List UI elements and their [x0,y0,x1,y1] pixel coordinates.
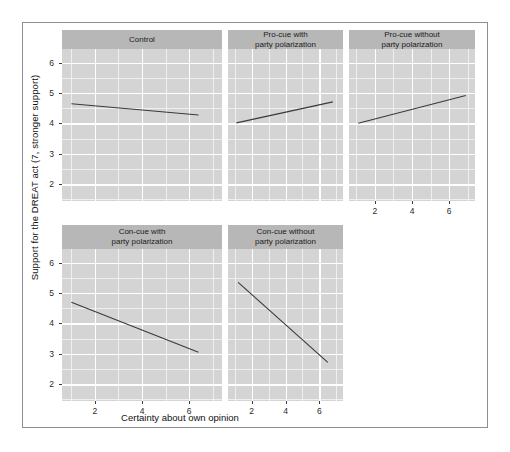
x-tick-mark [252,401,253,404]
plot-area-con-cue-without-party-polarization [228,249,343,401]
figure-root: Support for the DREAT act (7, stronger s… [0,0,510,452]
x-tick-label: 6 [442,206,456,216]
y-tick-mark [59,93,62,94]
y-tick-mark [59,263,62,264]
facet-strip-line: Con-cue with [112,227,173,237]
facet-panel-pro-cue-without-party-polarization: Pro-cue withoutparty polarization [349,30,475,201]
y-tick-mark [59,63,62,64]
facet-strip-line: Con-cue without [255,227,316,237]
plot-area-pro-cue-with-party-polarization [228,49,343,201]
facet-panel-control: Control [62,30,222,201]
trend-line-control [62,49,222,201]
x-tick-label: 2 [245,406,259,416]
y-tick-label: 4 [38,118,54,128]
facet-strip-line: Control [129,35,155,45]
facet-panel-pro-cue-with-party-polarization: Pro-cue withparty polarization [228,30,343,201]
y-tick-label: 3 [38,349,54,359]
x-tick-mark [412,201,413,204]
x-tick-mark [189,401,190,404]
y-tick-mark [59,354,62,355]
y-tick-mark [59,154,62,155]
y-tick-mark [59,323,62,324]
y-tick-mark [59,384,62,385]
x-tick-mark [375,201,376,204]
facet-strip-label-control: Control [62,30,222,49]
y-tick-label: 4 [38,318,54,328]
x-tick-mark [286,401,287,404]
facet-strip-label-con-cue-with-party-polarization: Con-cue withparty polarization [62,225,222,249]
y-tick-label: 2 [38,179,54,189]
y-tick-label: 5 [38,288,54,298]
y-tick-label: 2 [38,379,54,389]
x-tick-mark [319,401,320,404]
facet-strip-line: Pro-cue without [382,30,443,40]
facet-strip-line: party polarization [255,40,316,50]
plot-area-con-cue-with-party-polarization [62,249,222,401]
facet-strip-line: Pro-cue with [255,30,316,40]
trend-line-con-cue-without-party-polarization [228,249,343,401]
facet-strip-label-pro-cue-without-party-polarization: Pro-cue withoutparty polarization [349,30,475,49]
plot-area-control [62,49,222,201]
facet-strip-line: party polarization [112,237,173,247]
facet-strip-label-pro-cue-with-party-polarization: Pro-cue withparty polarization [228,30,343,49]
facet-strip-line: party polarization [382,40,443,50]
plot-area-pro-cue-without-party-polarization [349,49,475,201]
y-tick-mark [59,184,62,185]
trend-line-con-cue-with-party-polarization [62,249,222,401]
x-tick-label: 6 [312,406,326,416]
y-tick-label: 3 [38,149,54,159]
x-tick-mark [142,401,143,404]
x-tick-mark [449,201,450,204]
y-tick-label: 6 [38,258,54,268]
y-axis-title: Support for the DREAT act (7, stronger s… [29,48,40,308]
x-tick-label: 4 [135,406,149,416]
x-tick-label: 2 [368,206,382,216]
x-tick-label: 6 [182,406,196,416]
y-tick-mark [59,123,62,124]
facet-strip-label-con-cue-without-party-polarization: Con-cue withoutparty polarization [228,225,343,249]
x-tick-label: 4 [405,206,419,216]
y-tick-label: 5 [38,88,54,98]
x-tick-label: 4 [279,406,293,416]
facet-panel-con-cue-without-party-polarization: Con-cue withoutparty polarization [228,225,343,401]
facet-strip-line: party polarization [255,237,316,247]
x-tick-mark [95,401,96,404]
facet-panel-con-cue-with-party-polarization: Con-cue withparty polarization [62,225,222,401]
trend-line-pro-cue-without-party-polarization [349,49,475,201]
x-tick-label: 2 [88,406,102,416]
y-tick-label: 6 [38,58,54,68]
trend-line-pro-cue-with-party-polarization [228,49,343,201]
y-tick-mark [59,293,62,294]
